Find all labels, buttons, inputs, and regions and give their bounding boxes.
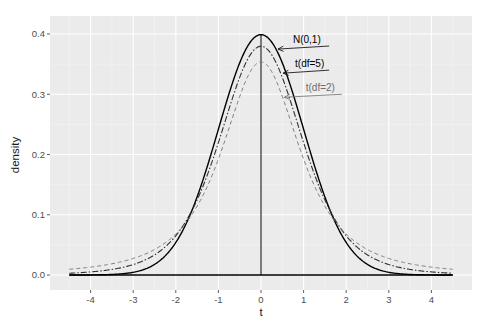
x-tick-label: -3 <box>129 294 137 305</box>
annotation-label: t(df=2) <box>306 82 335 93</box>
x-tick-label: -1 <box>214 294 222 305</box>
density-chart: N(0,1)t(df=5)t(df=2) -4-3-2-101234 0.00.… <box>0 0 486 330</box>
x-tick-label: -2 <box>172 294 180 305</box>
x-tick-label: 2 <box>344 294 349 305</box>
y-tick-label: 0.2 <box>32 149 45 160</box>
x-tick-label: 0 <box>258 294 263 305</box>
x-tick-label: 3 <box>386 294 391 305</box>
y-tick-label: 0.0 <box>32 269 45 280</box>
x-tick-label: 4 <box>429 294 434 305</box>
annotation-label: t(df=5) <box>295 58 324 69</box>
x-tick-label: -4 <box>86 294 94 305</box>
y-axis-title: density <box>9 137 21 174</box>
annotation-label: N(0,1) <box>293 34 321 45</box>
x-tick-label: 1 <box>301 294 306 305</box>
y-tick-label: 0.1 <box>32 209 45 220</box>
y-tick-label: 0.4 <box>32 28 45 39</box>
y-tick-label: 0.3 <box>32 89 45 100</box>
